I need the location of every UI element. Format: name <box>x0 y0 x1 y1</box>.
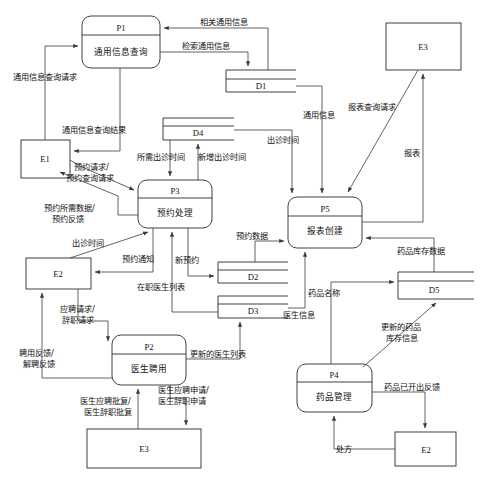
flow-label-yisheng-xinxi: 医生信息 <box>283 310 315 320</box>
flow-label-yisheng-pifu-2: 医生辞职批复 <box>84 407 132 417</box>
flow-label-yuyue-qingqiu-2: 预约查询请求 <box>66 173 114 183</box>
process-p4-name: 药品管理 <box>316 391 352 402</box>
flow-label-tongyong-xinxi: 通用信息 <box>303 110 335 120</box>
flow-label-suoxu-chuzhen: 所需出诊时间 <box>137 152 185 162</box>
flow-label-xinzeng-chuzhen: 新增出诊时间 <box>198 152 246 162</box>
flow-yisheng-xinxi <box>288 252 305 308</box>
external-e3-top-id: E3 <box>418 42 428 52</box>
flow-label-zaizhi-yisheng: 在职医生列表 <box>137 282 185 292</box>
flow-label-yingpin-2: 辞职请求 <box>62 315 94 325</box>
flow-label-pinyong-2: 解聘反馈 <box>23 359 55 369</box>
external-e1-id: E1 <box>40 154 50 164</box>
process-p3[interactable]: P3 预约处理 <box>138 180 212 228</box>
flow-label-gengxin-yisheng: 更新的医生列表 <box>190 349 246 359</box>
flow-label-tongyong-chaxun-qingqiu: 通用信息查询请求 <box>13 72 77 82</box>
process-p5-name: 报表创建 <box>307 225 343 236</box>
external-e2-left-id: E2 <box>53 269 63 279</box>
flow-label-xiangguan-tongyong: 相关通用信息 <box>200 17 248 27</box>
flow-tongyong-chaxun-jieguo <box>74 68 120 151</box>
external-e1[interactable]: E1 <box>21 140 70 178</box>
datastore-d2-id: D2 <box>248 272 259 282</box>
datastore-d4[interactable]: D4 <box>163 118 234 140</box>
flow-tongyong-xinxi <box>296 86 322 193</box>
flow-label-yisheng-shenqing-2: 医生辞职申请 <box>158 396 206 406</box>
external-e3-bottom[interactable]: E3 <box>87 429 201 468</box>
process-p2[interactable]: P2 医生聘用 <box>112 335 186 385</box>
flow-jiansuo-tongyong <box>160 52 248 66</box>
flow-label-yisheng-shenqing-1: 医生应聘申请/ <box>158 385 209 395</box>
flow-label-yuyue-data: 预约数据 <box>236 231 268 241</box>
process-p2-id: P2 <box>144 342 153 352</box>
external-e2-left[interactable]: E2 <box>26 258 91 289</box>
datastore-d1-id: D1 <box>256 81 267 91</box>
process-p4[interactable]: P4 药品管理 <box>297 364 372 412</box>
external-e3-top[interactable]: E3 <box>386 23 461 70</box>
process-p1-id: P1 <box>116 23 125 33</box>
process-p5[interactable]: P5 报表创建 <box>288 197 362 248</box>
flow-yuyue-data <box>255 241 284 262</box>
flow-label-yaopin-mingcheng: 药品名称 <box>308 288 340 298</box>
flow-label-xin-yuyue: 新预约 <box>175 255 199 265</box>
dfd-svg: P1 通用信息查询 P3 预约处理 P5 报表创建 P2 医生聘用 P4 药品管… <box>0 0 485 490</box>
flow-label-yaopin-kucun: 药品库存数据 <box>397 246 445 256</box>
flow-label-yisheng-pifu-1: 医生应聘批复/ <box>80 396 131 406</box>
datastore-d1[interactable]: D1 <box>226 70 296 92</box>
datastore-d5-id: D5 <box>429 285 440 295</box>
process-p3-name: 预约处理 <box>157 207 193 218</box>
flow-label-jiansuo-tongyong: 检索通用信息 <box>182 41 230 51</box>
external-e2-bottom[interactable]: E2 <box>395 432 456 466</box>
flow-baobiao-chaxun <box>348 70 418 192</box>
datastore-d5[interactable]: D5 <box>398 272 474 299</box>
flow-label-tongyong-chaxun-jieguo: 通用信息查询结果 <box>62 125 126 135</box>
flow-label-yaopin-fankui: 药品已开出反馈 <box>384 382 440 392</box>
datastore-d4-id: D4 <box>193 128 204 138</box>
flow-yuyue-tongzhi <box>95 228 153 272</box>
flow-label-yuyue-qingqiu-1: 预约请求/ <box>74 162 109 172</box>
flow-label-gengxin-yaopin-1: 更新的药品 <box>381 322 421 332</box>
flow-label-baobiao-chaxun: 报表查询请求 <box>348 102 396 112</box>
flow-label-yuyue-tongzhi: 预约通知 <box>122 254 154 264</box>
datastore-d3[interactable]: D3 <box>218 296 288 318</box>
process-p2-name: 医生聘用 <box>131 363 167 374</box>
external-e2-bottom-id: E2 <box>421 445 431 455</box>
flow-zaizhi-yisheng <box>172 232 218 312</box>
flow-label-chufang: 处方 <box>336 444 352 454</box>
flow-yaopin-fankui <box>372 392 425 428</box>
flow-label-yuyue-shuju-1: 预约所需数据/ <box>44 203 95 213</box>
process-p1-name: 通用信息查询 <box>94 46 148 57</box>
flow-label-baobiao: 报表 <box>404 148 420 158</box>
flow-label-pinyong-1: 聘用反馈/ <box>19 348 54 358</box>
flow-label-chuzhen-shijian-e2: 出诊时间 <box>72 238 104 248</box>
datastore-d2[interactable]: D2 <box>218 262 288 283</box>
process-p3-id: P3 <box>170 186 179 196</box>
dfd-canvas: P1 通用信息查询 P3 预约处理 P5 报表创建 P2 医生聘用 P4 药品管… <box>0 0 485 490</box>
datastore-d3-id: D3 <box>248 306 259 316</box>
external-e3-bottom-id: E3 <box>139 444 149 454</box>
flow-label-yuyue-shuju-2: 预约反馈 <box>52 214 84 224</box>
process-p1[interactable]: P1 通用信息查询 <box>82 16 160 68</box>
flow-label-yingpin-1: 应聘请求/ <box>60 304 95 314</box>
process-p5-id: P5 <box>320 204 329 214</box>
flow-xin-yuyue <box>188 228 214 276</box>
process-p4-id: P4 <box>329 370 339 380</box>
flow-label-gengxin-yaopin-2: 库存信息 <box>386 333 418 343</box>
flow-label-chuzhen-shijian-p5: 出诊时间 <box>267 135 299 145</box>
